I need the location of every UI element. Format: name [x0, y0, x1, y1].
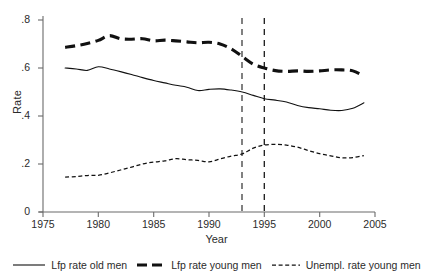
thick-dashed-line-key [136, 260, 166, 270]
legend-label: Lfp rate young men [171, 259, 261, 271]
plot-area [0, 0, 433, 278]
x-axis-ticks [43, 212, 375, 217]
axis-lines [39, 16, 375, 212]
series-line-lfp-rate-young-men [65, 36, 364, 77]
legend-item-unempl-young-men: Unempl. rate young men [271, 259, 421, 271]
legend-item-lfp-young-men: Lfp rate young men [136, 259, 261, 271]
legend-label: Unempl. rate young men [306, 259, 421, 271]
series-line-unempl-rate-young-men [65, 144, 364, 177]
solid-line-key [12, 260, 46, 270]
chart-legend: Lfp rate old men Lfp rate young men Unem… [0, 255, 433, 275]
y-axis-ticks [38, 20, 43, 212]
series-line-lfp-rate-old-men [65, 67, 364, 111]
data-series [65, 36, 364, 178]
reference-lines [242, 18, 264, 212]
dotted-line-key [271, 260, 301, 270]
legend-label: Lfp rate old men [51, 259, 127, 271]
line-chart-figure: Rate Year .8 .6 .4 .2 0 1975 1980 1985 1… [0, 0, 433, 278]
legend-item-lfp-old-men: Lfp rate old men [12, 259, 127, 271]
